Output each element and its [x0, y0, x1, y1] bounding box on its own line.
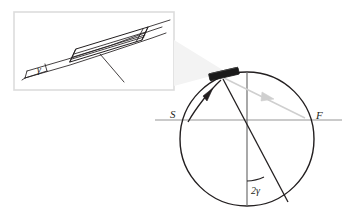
label-source-S: S — [170, 108, 176, 120]
label-focus-F: F — [315, 109, 323, 121]
label-angle-2gamma: 2γ — [251, 185, 261, 196]
figure-root: γ — [0, 0, 346, 213]
inset-panel: γ — [14, 12, 174, 90]
mirror-rotation-figure: γ — [0, 0, 346, 213]
